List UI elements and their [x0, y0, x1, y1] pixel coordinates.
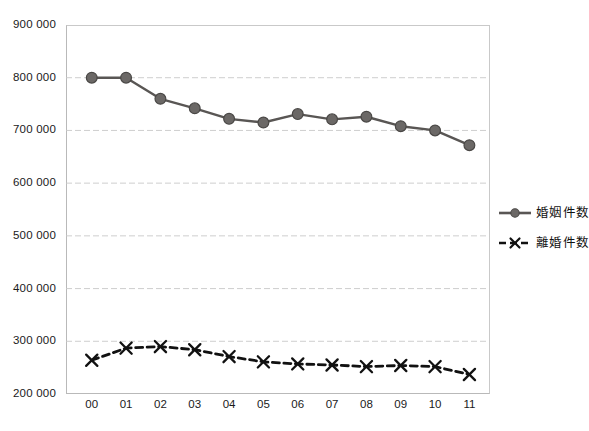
y-tick-label: 300 000 — [0, 336, 56, 348]
data-point-marker[interactable] — [464, 140, 475, 151]
data-point-marker[interactable] — [395, 121, 406, 132]
data-point-marker[interactable] — [224, 113, 235, 124]
x-tick-label: 11 — [454, 399, 484, 411]
x-tick-label: 01 — [111, 399, 141, 411]
x-tick-label: 04 — [214, 399, 244, 411]
y-tick-label: 900 000 — [0, 19, 56, 31]
data-point-marker[interactable] — [258, 117, 269, 128]
gridlines — [66, 78, 490, 342]
y-axis: 900 000800 000700 000600 000500 000400 0… — [0, 0, 56, 431]
data-point-marker[interactable] — [86, 72, 97, 83]
y-tick-label: 200 000 — [0, 388, 56, 400]
y-tick-label: 600 000 — [0, 177, 56, 189]
plot-canvas — [66, 25, 490, 394]
series-line — [92, 347, 470, 375]
legend-label-marriage: 婚姻件数 — [536, 207, 589, 220]
chart-legend: 婚姻件数 離婚件数 — [498, 198, 583, 258]
y-tick-label: 500 000 — [0, 230, 56, 242]
legend-label-divorce: 離婚件数 — [536, 237, 589, 250]
data-point-marker[interactable] — [292, 109, 303, 120]
legend-marker-circle-icon — [498, 205, 532, 221]
data-point-marker[interactable] — [430, 125, 441, 136]
x-tick-label: 00 — [77, 399, 107, 411]
legend-marker-x-icon — [498, 235, 532, 251]
data-point-marker[interactable] — [464, 369, 475, 380]
legend-item-divorce[interactable]: 離婚件数 — [498, 228, 583, 258]
series-layer — [86, 72, 475, 380]
x-tick-label: 02 — [145, 399, 175, 411]
x-tick-label: 07 — [317, 399, 347, 411]
data-point-marker[interactable] — [155, 93, 166, 104]
x-tick-label: 05 — [248, 399, 278, 411]
x-tick-label: 03 — [180, 399, 210, 411]
x-tick-label: 09 — [386, 399, 416, 411]
x-tick-label: 06 — [283, 399, 313, 411]
data-point-marker[interactable] — [121, 72, 132, 83]
series-line — [92, 78, 470, 145]
data-point-marker[interactable] — [189, 103, 200, 114]
series-divorce — [86, 341, 475, 380]
x-tick-label: 10 — [420, 399, 450, 411]
data-point-marker[interactable] — [361, 111, 372, 122]
legend-item-marriage[interactable]: 婚姻件数 — [498, 198, 583, 228]
data-point-marker[interactable] — [327, 114, 338, 125]
y-tick-label: 700 000 — [0, 125, 56, 137]
y-tick-label: 800 000 — [0, 72, 56, 84]
y-tick-label: 400 000 — [0, 283, 56, 295]
series-marriage — [86, 72, 474, 150]
x-tick-label: 08 — [351, 399, 381, 411]
